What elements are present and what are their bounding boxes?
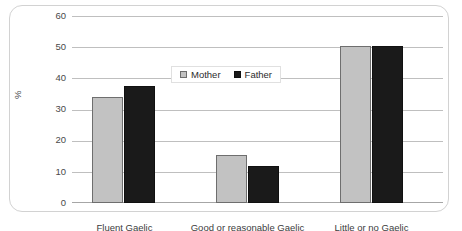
bar-father-good-or-reasonable-gaelic — [248, 166, 279, 203]
legend-label-father: Father — [245, 69, 272, 80]
y-tick-0: 0 — [30, 198, 66, 208]
category-label-little-or-no-gaelic: Little or no Gaelic — [309, 223, 434, 229]
y-axis-tick-labels: 60 50 40 30 20 10 0 — [30, 0, 66, 229]
y-tick-30: 30 — [30, 104, 66, 114]
bar-father-little-or-no-gaelic — [372, 46, 403, 203]
y-tick-60: 60 — [30, 11, 66, 21]
legend-swatch-mother-icon — [180, 71, 187, 78]
bar-mother-fluent-gaelic — [92, 97, 123, 203]
y-axis-title: % — [12, 91, 23, 99]
plot-area: Fluent Gaelic Good or reasonable Gaelic … — [72, 16, 443, 203]
category-label-good-or-reasonable-gaelic: Good or reasonable Gaelic — [185, 223, 310, 229]
bar-mother-good-or-reasonable-gaelic — [216, 155, 247, 203]
gridline-60 — [72, 16, 443, 17]
legend-entry-mother: Mother — [180, 69, 221, 80]
bar-mother-little-or-no-gaelic — [340, 46, 371, 203]
chart-legend: Mother Father — [171, 66, 281, 83]
legend-swatch-father-icon — [234, 71, 241, 78]
y-tick-50: 50 — [30, 42, 66, 52]
y-tick-10: 10 — [30, 167, 66, 177]
y-tick-40: 40 — [30, 73, 66, 83]
legend-entry-father: Father — [234, 69, 272, 80]
category-label-fluent-gaelic: Fluent Gaelic — [62, 223, 187, 229]
y-tick-20: 20 — [30, 135, 66, 145]
legend-label-mother: Mother — [191, 69, 221, 80]
bar-father-fluent-gaelic — [124, 86, 155, 203]
